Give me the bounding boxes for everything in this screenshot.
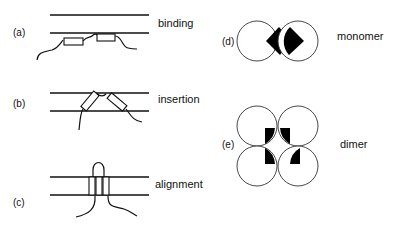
panel-e-dimer: (e) dimer	[222, 106, 368, 186]
panel-d-monomer: (d) monomer	[222, 21, 384, 61]
helix-bar-1	[89, 177, 95, 195]
peptide-chain-left	[76, 196, 95, 217]
panel-b-tag: (b)	[13, 98, 25, 109]
membrane-peptide-diagram: (a) binding (b) insertion (c) alignment	[0, 0, 403, 229]
helix-block-1	[64, 38, 83, 45]
panel-b-insertion: (b) insertion	[13, 91, 200, 130]
helix-block-right	[107, 93, 127, 111]
panel-a-label: binding	[158, 17, 193, 29]
panel-b-label: insertion	[158, 93, 200, 105]
panel-a-tag: (a)	[13, 27, 25, 38]
helix-bar-2	[96, 177, 102, 195]
panel-e-tag: (e)	[222, 139, 234, 150]
peptide-chain-right	[115, 36, 137, 49]
peptide-chain-left	[37, 40, 63, 60]
peptide-loop	[93, 163, 104, 178]
dimer-circle-top-right	[278, 106, 318, 146]
helix-block-left	[81, 91, 99, 111]
peptide-chain-right	[108, 196, 137, 216]
dimer-circle-top-left	[237, 106, 277, 146]
panel-a-binding: (a) binding	[13, 15, 193, 60]
panel-d-tag: (d)	[222, 36, 234, 47]
dimer-circle-bottom-left	[237, 146, 277, 186]
helix-block-2	[97, 34, 115, 41]
peptide-chain-left	[79, 109, 83, 130]
panel-e-label: dimer	[340, 138, 368, 150]
helix-bar-3	[103, 177, 109, 195]
panel-d-label: monomer	[337, 30, 384, 42]
panel-c-label: alignment	[155, 178, 203, 190]
panel-c-tag: (c)	[13, 197, 25, 208]
panel-c-alignment: (c) alignment	[13, 163, 203, 218]
peptide-linker	[83, 34, 97, 41]
